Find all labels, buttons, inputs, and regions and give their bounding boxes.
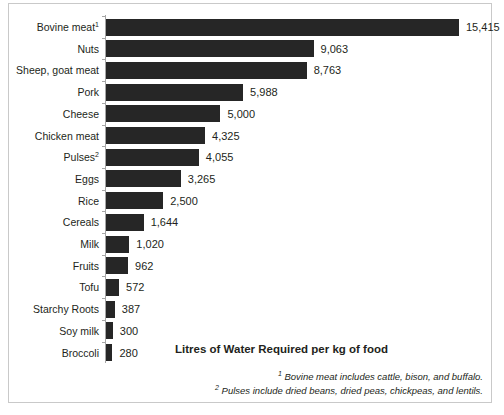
bar-row: Starchy Roots387 <box>9 298 491 321</box>
bar-row: Cheese5,000 <box>9 103 491 126</box>
category-label: Starchy Roots <box>33 298 99 321</box>
bar-value-label: 8,763 <box>314 59 342 82</box>
bar <box>106 127 205 144</box>
axis-tick <box>102 146 105 147</box>
category-label: Bovine meat1 <box>37 16 99 39</box>
bar-value-label: 572 <box>126 276 144 299</box>
bar-value-label: 15,415 <box>466 16 500 39</box>
axis-tick <box>102 190 105 191</box>
category-label: Rice <box>78 190 99 213</box>
bar <box>106 344 112 361</box>
bar-value-label: 1,644 <box>151 211 179 234</box>
bar-value-label: 3,265 <box>188 168 216 191</box>
bar-value-label: 4,055 <box>206 146 234 169</box>
axis-tick <box>102 233 105 234</box>
bar <box>106 301 115 318</box>
bar <box>106 257 128 274</box>
axis-tick <box>102 59 105 60</box>
axis-tick <box>102 16 105 17</box>
bar <box>106 192 163 209</box>
category-label: Pulses2 <box>64 146 99 169</box>
axis-tick <box>102 255 105 256</box>
footnote-2: 2 Pulses include dried beans, dried peas… <box>215 384 483 398</box>
footnote-2-text: Pulses include dried beans, dried peas, … <box>222 385 483 396</box>
category-label: Cheese <box>63 103 99 126</box>
bar <box>106 84 243 101</box>
footnote-1-marker: 1 <box>278 370 282 377</box>
category-label: Milk <box>80 233 99 256</box>
bar <box>106 62 307 79</box>
axis-tick <box>102 125 105 126</box>
bar-row: Milk1,020 <box>9 233 491 256</box>
category-label: Eggs <box>75 168 99 191</box>
category-label: Soy milk <box>59 320 99 343</box>
bar-row: Pork5,988 <box>9 81 491 104</box>
bar-value-label: 300 <box>120 320 138 343</box>
category-label: Broccoli <box>62 342 99 365</box>
bar <box>106 149 199 166</box>
bar-row: Soy milk300 <box>9 320 491 343</box>
category-footnote-marker: 2 <box>95 151 99 158</box>
axis-tick <box>102 276 105 277</box>
bar-value-label: 9,063 <box>321 38 349 61</box>
bar-row: Bovine meat115,415 <box>9 16 491 39</box>
bar <box>106 214 144 231</box>
bar-value-label: 962 <box>135 255 153 278</box>
axis-tick <box>102 168 105 169</box>
bar-row: Nuts9,063 <box>9 38 491 61</box>
bar-row: Tofu572 <box>9 276 491 299</box>
footnotes: 1 Bovine meat includes cattle, bison, an… <box>215 370 483 398</box>
bar-value-label: 280 <box>119 342 137 365</box>
category-label: Chicken meat <box>35 125 99 148</box>
bar-value-label: 4,325 <box>212 125 240 148</box>
axis-tick <box>102 103 105 104</box>
axis-tick <box>102 342 105 343</box>
category-label: Pork <box>77 81 99 104</box>
axis-tick <box>102 81 105 82</box>
chart-title: Litres of Water Required per kg of food <box>175 343 388 355</box>
bar <box>106 279 119 296</box>
axis-tick <box>102 298 105 299</box>
bar-value-label: 5,988 <box>250 81 278 104</box>
bar-row: Sheep, goat meat8,763 <box>9 59 491 82</box>
bar-value-label: 5,000 <box>227 103 255 126</box>
category-footnote-marker: 1 <box>95 21 99 28</box>
axis-tick <box>102 320 105 321</box>
category-label: Cereals <box>63 211 99 234</box>
footnote-2-marker: 2 <box>215 384 219 391</box>
bar-row: Fruits962 <box>9 255 491 278</box>
chart-frame: Bovine meat115,415Nuts9,063Sheep, goat m… <box>8 3 492 403</box>
bar <box>106 236 129 253</box>
bar-row: Chicken meat4,325 <box>9 125 491 148</box>
category-label: Fruits <box>73 255 99 278</box>
bar-value-label: 2,500 <box>170 190 198 213</box>
category-label: Tofu <box>79 276 99 299</box>
axis-tick <box>102 211 105 212</box>
footnote-1: 1 Bovine meat includes cattle, bison, an… <box>215 370 483 384</box>
footnote-1-text: Bovine meat includes cattle, bison, and … <box>284 371 483 382</box>
bar <box>106 40 314 57</box>
bar <box>106 19 459 36</box>
bar-value-label: 387 <box>122 298 140 321</box>
bar-row: Cereals1,644 <box>9 211 491 234</box>
bar-value-label: 1,020 <box>136 233 164 256</box>
category-label: Sheep, goat meat <box>16 59 99 82</box>
bar <box>106 322 113 339</box>
category-label: Nuts <box>77 38 99 61</box>
bar <box>106 105 220 122</box>
bar-row: Eggs3,265 <box>9 168 491 191</box>
axis-tick <box>102 38 105 39</box>
bar-row: Rice2,500 <box>9 190 491 213</box>
bar-row: Pulses24,055 <box>9 146 491 169</box>
bar <box>106 170 181 187</box>
